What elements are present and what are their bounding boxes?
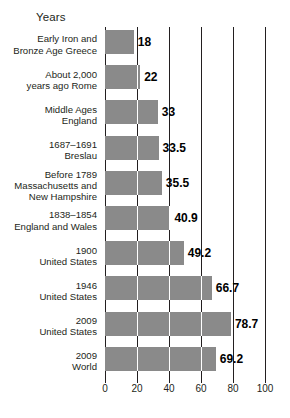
category-label: 1946United States <box>0 273 100 308</box>
bar-gridline-mask-20 <box>137 100 138 124</box>
bar-row: 33 <box>105 97 265 132</box>
category-label-line: 1838–1854 <box>49 209 97 220</box>
category-label-line: United States <box>39 256 97 267</box>
bar-gridline-mask-60 <box>201 347 202 371</box>
bar-value-label: 49.2 <box>184 241 211 265</box>
bar-gridline-mask-60 <box>201 276 202 300</box>
category-label-line: Early Iron and <box>37 33 97 44</box>
bar-row: 18 <box>105 27 265 62</box>
category-axis-labels: Early Iron andBronze Age GreeceAbout 2,0… <box>0 27 100 379</box>
bar-gridline-mask-20 <box>137 136 138 160</box>
category-label-line: England and Wales <box>14 221 97 232</box>
category-label-line: New Hampshire <box>29 191 97 202</box>
bar-gridline-mask-20 <box>137 206 138 230</box>
axis-tick-label-80: 80 <box>227 383 238 394</box>
axis-tick-label-60: 60 <box>195 383 206 394</box>
gridline-100 <box>265 27 266 379</box>
bar-gridline-mask-40 <box>169 241 170 265</box>
axis-tick-label-0: 0 <box>102 383 108 394</box>
bar <box>105 241 184 265</box>
plot-area: 18223333.535.540.949.266.778.769.2 <box>105 27 265 379</box>
category-label: 2009United States <box>0 309 100 344</box>
bar-gridline-mask-20 <box>137 241 138 265</box>
axis-tick-label-100: 100 <box>257 383 274 394</box>
bar-gridline-mask-20 <box>137 312 138 336</box>
bar-value-label: 22 <box>140 65 157 89</box>
bar-row: 69.2 <box>105 344 265 379</box>
category-label-line: years ago Rome <box>27 80 97 91</box>
category-label-line: England <box>62 115 97 126</box>
category-label: 1900United States <box>0 238 100 273</box>
category-label-line: 1900 <box>76 245 97 256</box>
bar-gridline-mask-40 <box>169 312 170 336</box>
bar-value-label: 33.5 <box>159 136 186 160</box>
axis-tick-label-20: 20 <box>131 383 142 394</box>
category-label-line: 2009 <box>76 315 97 326</box>
category-label-line: World <box>72 361 97 372</box>
bar-gridline-mask-20 <box>137 65 138 89</box>
bar-rows: 18223333.535.540.949.266.778.769.2 <box>105 27 265 379</box>
bar <box>105 136 159 160</box>
category-label-line: 1946 <box>76 280 97 291</box>
category-label: Middle AgesEngland <box>0 97 100 132</box>
bar-gridline-mask-20 <box>137 171 138 195</box>
value-axis: 020406080100 <box>105 379 265 399</box>
bar <box>105 30 134 54</box>
category-label: Early Iron andBronze Age Greece <box>0 27 100 62</box>
life-expectancy-bar-chart: Years Early Iron andBronze Age GreeceAbo… <box>0 0 290 418</box>
category-label-line: Breslau <box>64 150 97 161</box>
category-label: 1687–1691Breslau <box>0 133 100 168</box>
category-label-line: 2009 <box>76 350 97 361</box>
category-label-line: 1687–1691 <box>49 139 97 150</box>
category-label: About 2,000years ago Rome <box>0 62 100 97</box>
bar-value-label: 66.7 <box>212 276 239 300</box>
category-label-line: United States <box>39 326 97 337</box>
category-label: 1838–1854England and Wales <box>0 203 100 238</box>
bar-row: 35.5 <box>105 168 265 203</box>
category-label-line: Bronze Age Greece <box>13 45 97 56</box>
category-label: 2009World <box>0 344 100 379</box>
bar-row: 40.9 <box>105 203 265 238</box>
bar-gridline-mask-40 <box>169 276 170 300</box>
bar-value-label: 33 <box>158 100 175 124</box>
category-label-line: United States <box>39 291 97 302</box>
category-label-line: Massachusetts and <box>14 180 97 191</box>
category-label-line: Middle Ages <box>45 104 97 115</box>
category-label-line: About 2,000 <box>45 69 97 80</box>
bar-row: 78.7 <box>105 309 265 344</box>
bar <box>105 347 216 371</box>
bar-value-label: 40.9 <box>170 206 197 230</box>
bar-row: 22 <box>105 62 265 97</box>
bar-value-label: 18 <box>134 30 151 54</box>
bar-gridline-mask-20 <box>137 276 138 300</box>
bar-value-label: 69.2 <box>216 347 243 371</box>
bar-row: 49.2 <box>105 238 265 273</box>
bar-gridline-mask-60 <box>201 312 202 336</box>
bar-value-label: 78.7 <box>231 312 258 336</box>
bar <box>105 171 162 195</box>
bar-gridline-mask-40 <box>169 347 170 371</box>
bar-value-label: 35.5 <box>162 171 189 195</box>
bar <box>105 206 170 230</box>
bar-gridline-mask-20 <box>137 347 138 371</box>
axis-tick-label-40: 40 <box>163 383 174 394</box>
bar <box>105 65 140 89</box>
bar <box>105 276 212 300</box>
category-label-line: Before 1789 <box>45 169 97 180</box>
bar-row: 66.7 <box>105 273 265 308</box>
bar-row: 33.5 <box>105 133 265 168</box>
bar <box>105 312 231 336</box>
category-label: Before 1789Massachusetts andNew Hampshir… <box>0 168 100 203</box>
chart-title: Years <box>36 11 66 23</box>
bar <box>105 100 158 124</box>
